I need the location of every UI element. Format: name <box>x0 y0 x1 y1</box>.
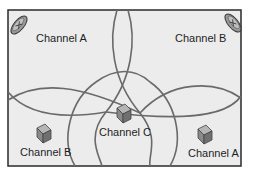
label-top-left: Channel A <box>36 32 87 44</box>
label-top-right: Channel B <box>175 32 226 44</box>
label-bottom-left: Channel B <box>20 146 71 158</box>
label-bottom-center: Channel C <box>99 126 151 138</box>
label-bottom-right: Channel A <box>188 147 239 159</box>
